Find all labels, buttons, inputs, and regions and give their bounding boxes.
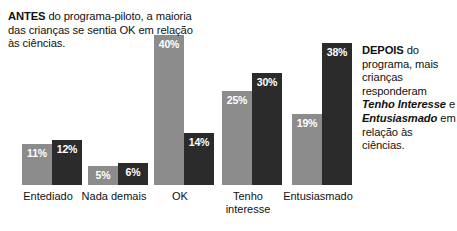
chart-canvas: 11%12%Entediado5%6%Nada demais40%14%OK25…: [0, 0, 457, 231]
bar-value-label: 25%: [222, 94, 252, 106]
bar-before[interactable]: 25%: [222, 91, 252, 185]
bar-value-label: 11%: [22, 147, 52, 159]
bar-value-label: 14%: [184, 136, 214, 148]
annotation-after-emphasis-2: Entusiasmado: [362, 112, 437, 124]
bar-after[interactable]: 38%: [322, 43, 352, 186]
bar-value-label: 38%: [322, 46, 352, 58]
bar-after[interactable]: 14%: [184, 133, 214, 186]
bar-before[interactable]: 40%: [154, 35, 184, 185]
annotation-after: DEPOIS do programa, mais crianças respon…: [362, 44, 457, 153]
bar-value-label: 6%: [118, 166, 148, 178]
bar-value-label: 30%: [252, 76, 282, 88]
annotation-after-text-2: e: [446, 98, 455, 110]
bar-value-label: 12%: [52, 143, 82, 155]
bar-before[interactable]: 5%: [88, 166, 118, 185]
bar-value-label: 5%: [88, 169, 118, 181]
bar-group: 19%38%: [292, 0, 352, 185]
bar-before[interactable]: 11%: [22, 144, 52, 185]
category-label: Entusiasmado: [268, 190, 368, 203]
annotation-before: ANTES do programa-piloto, a maioria das …: [8, 10, 198, 51]
bar-value-label: 19%: [292, 117, 322, 129]
annotation-before-keyword: ANTES: [8, 10, 45, 22]
bar-group: 25%30%: [222, 0, 282, 185]
annotation-after-keyword: DEPOIS: [362, 44, 404, 56]
annotation-after-emphasis-1: Tenho Interesse: [362, 98, 446, 110]
bar-before[interactable]: 19%: [292, 114, 322, 185]
bar-after[interactable]: 12%: [52, 140, 82, 185]
bar-after[interactable]: 30%: [252, 73, 282, 186]
bar-after[interactable]: 6%: [118, 163, 148, 186]
